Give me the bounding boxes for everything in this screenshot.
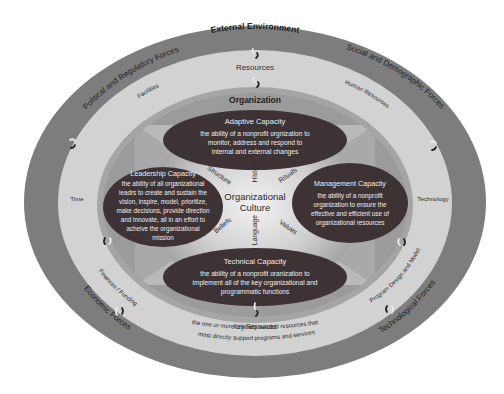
management-capacity-desc-1: the ability of a nonprofit	[317, 192, 382, 200]
management-capacity-desc-2: organization to ensure the	[314, 201, 387, 209]
management-capacity-desc-4: organizational resources	[316, 219, 385, 227]
management-capacity-desc-3: effective and efficient use of	[311, 210, 389, 217]
resource-time: Time	[70, 195, 84, 202]
adaptive-capacity: Adaptive Capacity the ability of a nonpr…	[163, 110, 347, 170]
technical-capacity-title: Technical Capacity	[224, 257, 287, 266]
leadership-capacity-desc-3: vision, inspire, model, prioritize,	[119, 198, 207, 206]
leadership-capacity-desc-2: leadrs to create and sustain the	[119, 189, 207, 196]
leadership-capacity-desc-7: mission	[152, 234, 174, 241]
organization-title: Organization	[229, 95, 281, 105]
adaptive-capacity-desc-2: monitor, address and respond to	[208, 139, 303, 147]
adaptive-capacity-title: Adaptive Capacity	[225, 117, 286, 126]
leadership-capacity-desc-4: make decisions, provide direction	[116, 207, 210, 215]
leadership-capacity-desc-1: the ability of all organizational	[122, 180, 205, 188]
adaptive-capacity-desc-1: the ability of a nonprofit orgnization t…	[200, 130, 310, 138]
leadership-capacity-desc-6: acheive the organizational	[126, 225, 199, 233]
resources-title: Resources	[236, 63, 274, 72]
resource-technology: Technology	[417, 195, 449, 202]
management-capacity: Management Capacity the ability of a non…	[292, 163, 408, 243]
leadership-capacity: Leadership Capacity the ability of all o…	[103, 167, 223, 247]
leadership-capacity-desc-5: and innovate, all in an effort to	[121, 216, 206, 223]
leadership-capacity-title: Leadership Capacity	[130, 169, 196, 178]
technical-capacity: Technical Capacity the ability of a nonp…	[163, 248, 347, 306]
culture-history: History	[251, 161, 259, 183]
culture-title-line2: Culture	[240, 202, 271, 213]
technical-capacity-desc-3: programmatic functions	[221, 288, 290, 296]
technical-capacity-desc-2: implement all of the key organizational …	[193, 279, 318, 287]
organizational-capacity-diagram: Adaptive Capacity the ability of a nonpr…	[0, 0, 504, 394]
technical-capacity-desc-1: the ability of a nonprofit oranization t…	[200, 270, 310, 278]
culture-language: Language	[251, 215, 259, 245]
management-capacity-title: Management Capacity	[314, 179, 386, 188]
adaptive-capacity-desc-3: internal and external changes	[212, 148, 299, 156]
culture-title-line1: Organizational	[224, 191, 285, 202]
